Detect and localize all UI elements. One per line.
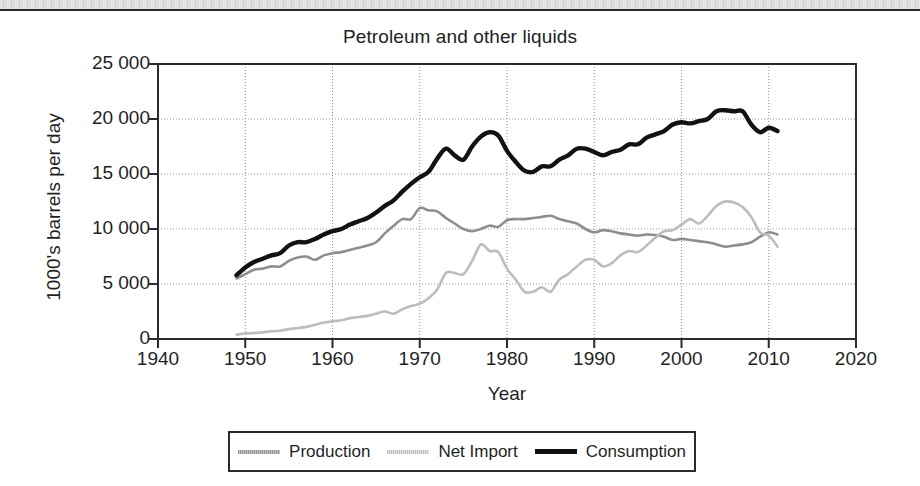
chart-figure: Petroleum and other liquids 1000's barre… — [0, 0, 920, 486]
x-tick-label: 1950 — [205, 348, 285, 370]
legend-label: Production — [289, 442, 370, 462]
x-axis-title: Year — [158, 383, 856, 405]
legend-swatch-icon — [387, 450, 429, 454]
axis-ticks — [148, 64, 856, 348]
x-tick-label: 1980 — [467, 348, 547, 370]
gridlines — [158, 64, 856, 339]
legend-swatch-icon — [238, 450, 280, 454]
legend-entry-consumption[interactable]: Consumption — [535, 442, 686, 462]
legend-swatch-icon — [535, 449, 577, 454]
x-tick-label: 1940 — [118, 348, 198, 370]
legend-label: Consumption — [586, 442, 686, 462]
x-tick-label: 1990 — [554, 348, 634, 370]
legend-label: Net Import — [438, 442, 517, 462]
series-lines — [237, 110, 778, 334]
x-tick-label: 2020 — [816, 348, 896, 370]
x-tick-label: 1960 — [293, 348, 373, 370]
legend-entry-net-import[interactable]: Net Import — [387, 442, 517, 462]
legend-entry-production[interactable]: Production — [238, 442, 370, 462]
x-tick-label: 1970 — [380, 348, 460, 370]
chart-legend[interactable]: ProductionNet ImportConsumption — [228, 431, 696, 472]
plot-area — [0, 0, 920, 486]
x-tick-label: 2010 — [729, 348, 809, 370]
x-tick-label: 2000 — [642, 348, 722, 370]
plot-frame — [158, 64, 856, 339]
